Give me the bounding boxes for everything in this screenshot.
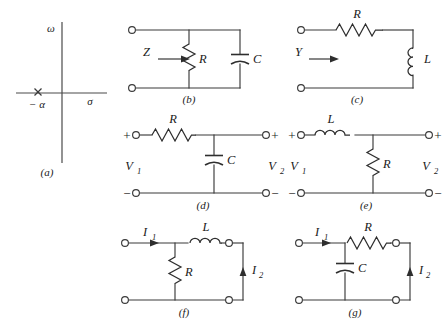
panel-d-terminal-top-left: [133, 132, 140, 139]
panel-f: I 1 R L I 2 (f): [122, 220, 264, 319]
panel-b-terminal-bottom: [129, 85, 136, 92]
panel-e-output-sub: 2: [434, 166, 439, 176]
panel-a-omega-label: ω: [47, 22, 55, 34]
panel-c-resistor-label: R: [352, 7, 361, 21]
panel-d-output-label: V: [268, 159, 277, 173]
panel-e-input-label: V: [290, 159, 299, 173]
panel-f-terminal-bottom-left: [122, 297, 129, 304]
panel-g-caption: (g): [349, 306, 362, 319]
panel-e: + − + − L R V 1 V 2 (e): [288, 112, 441, 212]
panel-d-capacitor: [205, 156, 223, 166]
panel-b: Z R C (b): [129, 27, 262, 106]
panel-f-input-sub: 1: [152, 232, 156, 242]
panel-f-caption: (f): [179, 306, 190, 319]
panel-g-terminal-bottom-right: [393, 297, 400, 304]
panel-d-resistor: [152, 129, 196, 141]
panel-e-terminal-top-right: [426, 132, 433, 139]
panel-g-terminal-bottom-left: [296, 297, 303, 304]
panel-g: I 1 C R I 2 (g): [296, 220, 431, 319]
panel-d-polarity-bottom-right: −: [271, 186, 278, 201]
panel-e-resistor: [367, 135, 379, 193]
figure-root: ω σ − α (a) Z: [0, 0, 444, 332]
panel-f-input-label: I: [142, 225, 148, 239]
panel-f-terminal-bottom-right: [226, 297, 233, 304]
panel-a-pole-label: − α: [29, 98, 45, 110]
panel-d-caption: (d): [197, 199, 210, 212]
panel-e-inductor-label: L: [327, 112, 335, 126]
panel-e-terminal-bottom-left: [298, 190, 305, 197]
panel-g-terminal-top-right: [393, 240, 400, 247]
panel-a-sigma-label: σ: [87, 95, 93, 107]
panel-d: + − + − R C V 1 V 2 (d): [123, 112, 285, 212]
panel-g-capacitor: [336, 243, 354, 300]
panel-f-inductor: [190, 238, 222, 243]
panel-b-terminal-top: [129, 27, 136, 34]
panel-e-terminal-top-left: [298, 132, 305, 139]
panel-c-port-arrow-icon: [309, 55, 339, 62]
panel-c-terminal-bottom: [298, 85, 305, 92]
panel-b-capacitor: [231, 55, 249, 65]
panel-g-output-sub: 2: [426, 270, 431, 280]
panel-c-inductor: [408, 48, 413, 76]
panel-d-output-sub: 2: [280, 166, 285, 176]
panel-d-terminal-bottom-left: [133, 190, 140, 197]
panel-e-input-sub: 1: [302, 166, 306, 176]
panel-g-output-label: I: [418, 263, 424, 277]
panel-d-resistor-label: R: [168, 112, 177, 126]
panel-e-inductor: [315, 130, 350, 135]
panel-b-resistor-label: R: [198, 52, 207, 66]
panel-b-port-label: Z: [143, 45, 151, 59]
panel-f-resistor-label: R: [184, 265, 193, 279]
panel-e-polarity-bottom-right: −: [434, 186, 441, 201]
panel-c-port-label: Y: [295, 45, 304, 59]
panel-e-polarity-bottom-left: −: [288, 186, 295, 201]
panel-d-polarity-top-right: +: [271, 128, 278, 143]
panel-d-polarity-top-left: +: [123, 128, 130, 143]
panel-g-terminal-top-left: [296, 240, 303, 247]
panel-d-terminal-bottom-right: [263, 190, 270, 197]
panel-c-caption: (c): [351, 93, 364, 106]
panel-g-input-sub: 1: [324, 232, 328, 242]
panel-d-input-label: V: [125, 159, 134, 173]
panel-c-inductor-label: L: [423, 52, 431, 66]
panel-a: ω σ − α (a): [16, 22, 107, 179]
panel-d-terminal-top-right: [263, 132, 270, 139]
panel-g-input-label: I: [314, 225, 320, 239]
panel-e-polarity-top-right: +: [434, 128, 441, 143]
panel-g-resistor-label: R: [363, 220, 372, 234]
panel-c-resistor: [336, 24, 383, 36]
panel-g-resistor: [347, 237, 391, 249]
panel-f-resistor: [169, 243, 181, 300]
panel-f-output-label: I: [251, 263, 257, 277]
panel-e-resistor-label: R: [382, 157, 391, 171]
panel-d-input-sub: 1: [137, 166, 141, 176]
panel-e-output-label: V: [422, 159, 431, 173]
panel-g-capacitor-label: C: [358, 261, 367, 275]
panel-b-capacitor-label: C: [253, 52, 262, 66]
panel-e-polarity-top-left: +: [288, 128, 295, 143]
panel-f-output-current-arrow-icon: [240, 267, 247, 276]
circuit-figure-svg: ω σ − α (a) Z: [0, 0, 444, 332]
panel-d-capacitor-label: C: [227, 153, 236, 167]
panel-e-caption: (e): [360, 199, 373, 212]
panel-d-polarity-bottom-left: −: [123, 186, 130, 201]
panel-f-output-sub: 2: [259, 270, 264, 280]
panel-c-terminal-top: [298, 27, 305, 34]
panel-f-terminal-top-left: [122, 240, 129, 247]
panel-c: Y R L (c): [295, 7, 431, 106]
panel-a-caption: (a): [41, 166, 54, 179]
panel-a-pole-marker-icon: [35, 89, 42, 96]
panel-e-terminal-bottom-right: [426, 190, 433, 197]
panel-f-terminal-top-right: [226, 240, 233, 247]
panel-g-output-current-arrow-icon: [407, 267, 414, 276]
panel-f-inductor-label: L: [202, 220, 210, 234]
panel-b-caption: (b): [183, 93, 196, 106]
